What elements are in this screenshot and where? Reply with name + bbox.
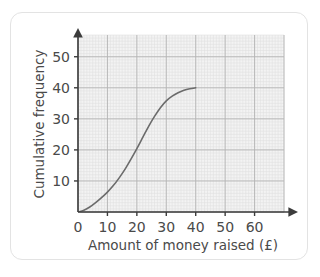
y-tick-label: 30 bbox=[52, 111, 70, 127]
x-tick-label: 30 bbox=[157, 219, 175, 235]
x-tick-label: 50 bbox=[216, 219, 234, 235]
y-tick-label: 50 bbox=[52, 49, 70, 65]
x-tick-label: 20 bbox=[128, 219, 146, 235]
x-tick-label: 10 bbox=[99, 219, 117, 235]
x-tick-label: 40 bbox=[187, 219, 205, 235]
y-axis-title: Cumulative frequency bbox=[31, 49, 47, 198]
chart-svg: 1020304050 0102030405060 Cumulative freq… bbox=[0, 0, 320, 277]
y-axis-tick-labels: 1020304050 bbox=[52, 49, 70, 189]
x-axis-title: Amount of money raised (£) bbox=[88, 237, 278, 253]
x-tick-label: 0 bbox=[74, 219, 83, 235]
y-tick-label: 10 bbox=[52, 173, 70, 189]
y-tick-label: 40 bbox=[52, 80, 70, 96]
x-axis-tick-labels: 0102030405060 bbox=[74, 219, 264, 235]
x-tick-label: 60 bbox=[246, 219, 264, 235]
y-tick-label: 20 bbox=[52, 142, 70, 158]
cumulative-frequency-chart: 1020304050 0102030405060 Cumulative freq… bbox=[0, 0, 320, 277]
